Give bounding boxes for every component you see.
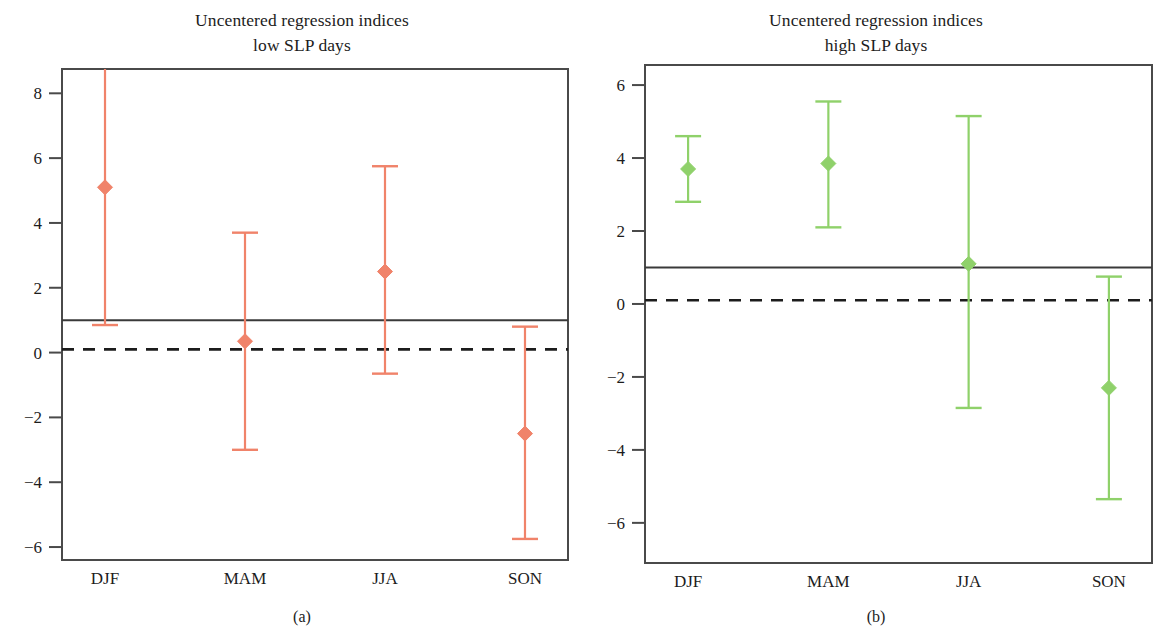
data-point-marker [238, 334, 253, 349]
x-tick-label-djf: DJF [91, 569, 119, 588]
x-tick-label-mam: MAM [224, 569, 267, 588]
error-bar-group [956, 116, 982, 408]
y-tick-label: 0 [34, 344, 43, 363]
y-tick-label: −2 [607, 368, 625, 387]
panel-a-plot: 86420−2−4−6DJFMAMJJASON [0, 0, 584, 636]
x-tick-label-son: SON [1092, 572, 1126, 591]
y-tick-label: 6 [617, 76, 626, 95]
x-tick-label-jja: JJA [372, 569, 398, 588]
data-point-marker [961, 256, 976, 271]
y-tick-label: 2 [617, 222, 626, 241]
data-point-marker [517, 426, 532, 441]
x-tick-label-mam: MAM [807, 572, 850, 591]
error-bar-group [815, 101, 841, 227]
plot-frame [62, 69, 568, 560]
x-axis-labels: DJFMAMJJASON [91, 569, 542, 588]
y-tick-label: −6 [24, 538, 42, 557]
x-axis-labels: DJFMAMJJASON [674, 572, 1126, 591]
panel-b-caption: (b) [614, 608, 1138, 626]
panel-b: Uncentered regression indices high SLP d… [584, 0, 1168, 636]
x-tick-label-jja: JJA [956, 572, 982, 591]
error-bar-group [372, 166, 398, 373]
y-tick-label: 4 [34, 214, 43, 233]
y-tick-label: 0 [617, 295, 626, 314]
y-tick-label: 6 [34, 149, 43, 168]
plot-frame [645, 65, 1152, 563]
panel-a-caption: (a) [40, 608, 564, 626]
error-bar-group [232, 233, 258, 450]
y-tick-label: 2 [34, 279, 43, 298]
x-tick-label-son: SON [508, 569, 542, 588]
data-point-marker [377, 264, 392, 279]
x-tick-label-djf: DJF [674, 572, 702, 591]
y-tick-label: 4 [617, 149, 626, 168]
error-bar-group [512, 327, 538, 539]
panel-b-plot: 6420−2−4−6DJFMAMJJASON [584, 0, 1168, 636]
y-tick-label: −4 [607, 441, 626, 460]
y-tick-label: −4 [24, 473, 43, 492]
error-bar-group [92, 69, 118, 325]
y-axis-ticks: 6420−2−4−6 [607, 76, 645, 533]
figure-container: Uncentered regression indices low SLP da… [0, 0, 1168, 636]
error-bar-group [1096, 277, 1122, 500]
data-point-marker [681, 161, 696, 176]
y-tick-label: 8 [34, 84, 43, 103]
error-bar-group [675, 136, 701, 202]
data-point-marker [821, 156, 836, 171]
y-tick-label: −6 [607, 514, 625, 533]
y-axis-ticks: 86420−2−4−6 [24, 84, 62, 557]
data-point-marker [98, 180, 113, 195]
data-point-marker [1101, 380, 1116, 395]
y-tick-label: −2 [24, 408, 42, 427]
panel-a: Uncentered regression indices low SLP da… [0, 0, 584, 636]
